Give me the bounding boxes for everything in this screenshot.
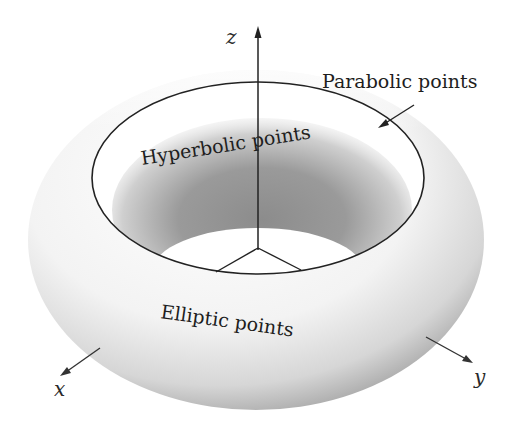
y-axis-arrow [426,337,473,363]
parabolic-points-label: Parabolic points [322,70,477,92]
torus-diagram: z x y Parabolic points Hyperbolic points… [0,0,528,424]
x-axis-arrow [60,348,100,376]
y-axis-label: y [473,365,486,389]
x-axis-label: x [54,377,65,401]
z-axis-label: z [225,25,237,49]
